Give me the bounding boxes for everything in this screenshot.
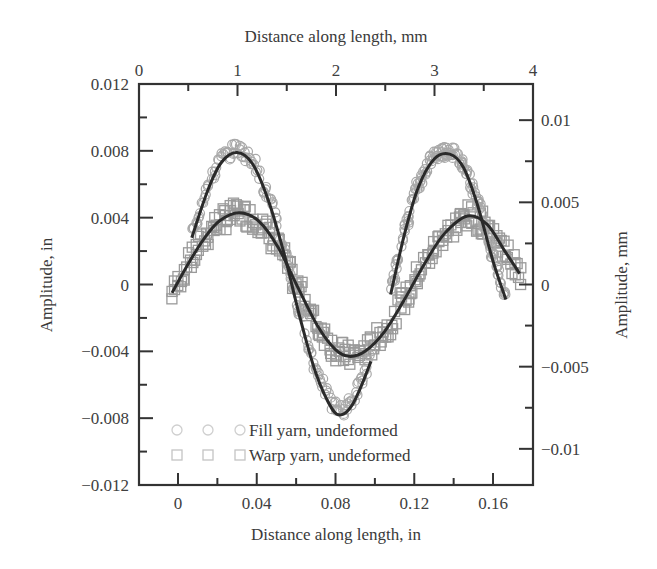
y-tick-label: 0.008 (91, 142, 129, 161)
x-tick-label: 0.16 (478, 494, 508, 513)
y2-tick-label: 0 (541, 276, 550, 295)
legend-label-fill: Fill yarn, undeformed (249, 421, 398, 440)
legend-label-warp: Warp yarn, undeformed (249, 446, 411, 465)
y-tick-label: 0.004 (91, 209, 130, 228)
legend-item-warp: Warp yarn, undeformed (172, 446, 411, 465)
x2-tick-label: 0 (135, 61, 144, 80)
x2-tick-label: 4 (529, 61, 538, 80)
y2-tick-label: 0.005 (541, 193, 579, 212)
fit-curve-fill (192, 152, 371, 414)
y-tick-label: −0.012 (81, 476, 129, 495)
y2-tick-label: −0.005 (541, 358, 589, 377)
x-axis-title: Distance along length, in (251, 525, 421, 544)
y-tick-label: 0 (121, 276, 130, 295)
legend-item-fill: Fill yarn, undeformed (172, 421, 398, 440)
y2-axis-title: Amplitude, mm (612, 231, 631, 339)
x-tick-label: 0.04 (242, 494, 272, 513)
y-tick-label: −0.004 (81, 342, 129, 361)
circle-marker-icon (172, 425, 182, 435)
square-marker-icon (203, 450, 213, 460)
x2-tick-label: 2 (332, 61, 341, 80)
x-tick-label: 0.08 (321, 494, 351, 513)
data-point-warp (167, 294, 177, 304)
circle-marker-icon (203, 425, 213, 435)
y-axis-title: Amplitude, in (37, 237, 56, 332)
y-tick-label: −0.008 (81, 409, 129, 428)
x2-tick-label: 1 (233, 61, 242, 80)
circle-marker-icon (235, 425, 245, 435)
x2-tick-label: 3 (430, 61, 439, 80)
y2-tick-label: −0.01 (541, 440, 580, 459)
x-tick-label: 0.12 (399, 494, 429, 513)
square-marker-icon (235, 450, 245, 460)
x-tick-label: 0 (174, 494, 183, 513)
y-tick-label: 0.012 (91, 75, 129, 94)
data-markers (167, 139, 526, 420)
chart: 00.040.080.120.1601234−0.012−0.008−0.004… (0, 0, 657, 569)
x2-axis-title: Distance along length, mm (244, 27, 427, 46)
square-marker-icon (172, 450, 182, 460)
y2-tick-label: 0.01 (541, 111, 571, 130)
legend: Fill yarn, undeformed Warp yarn, undefor… (172, 421, 411, 465)
